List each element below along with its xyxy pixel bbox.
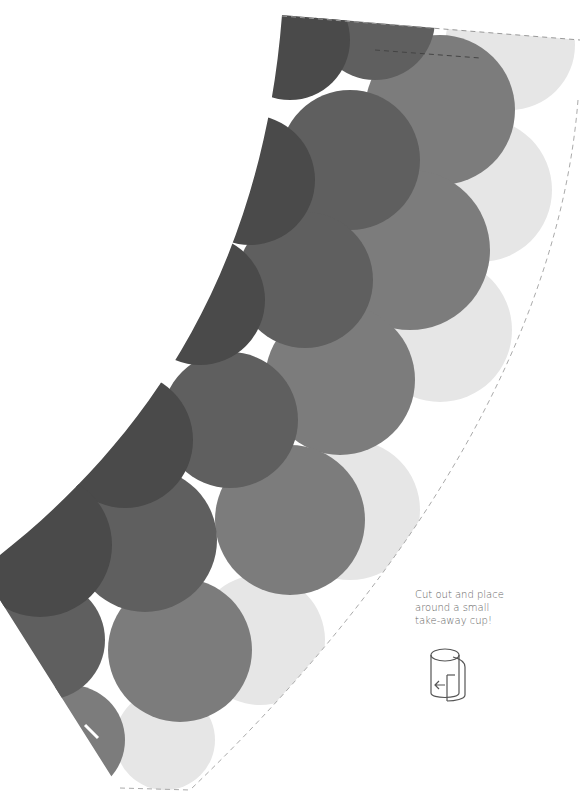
cup-sleeve-template	[0, 0, 580, 796]
instructions-text: Cut out and place around a small take-aw…	[415, 588, 525, 627]
cup-wrap-icon	[425, 645, 473, 705]
instruction-line-3: take-away cup!	[415, 614, 525, 627]
instruction-line-2: around a small	[415, 601, 525, 614]
slot-cut-1	[33, 668, 45, 680]
scale-pattern	[0, 0, 575, 795]
instruction-line-1: Cut out and place	[415, 588, 525, 601]
